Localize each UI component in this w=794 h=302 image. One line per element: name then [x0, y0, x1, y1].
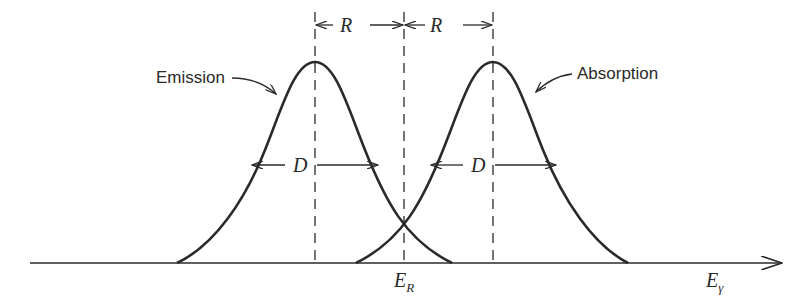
er-label-sub: R — [406, 280, 414, 295]
er-label-main: E — [394, 269, 406, 291]
diagram-graphics — [0, 0, 794, 302]
emission-curve — [177, 62, 452, 263]
emission-leader — [232, 78, 276, 94]
axis-label-main: E — [706, 269, 718, 291]
axis-label: Eγ — [706, 270, 723, 294]
width-right-label: D — [471, 155, 485, 175]
recoil-left-label: R — [340, 15, 352, 35]
emission-label: Emission — [156, 69, 225, 86]
absorption-leader — [536, 74, 572, 92]
width-left-label: D — [293, 155, 307, 175]
absorption-label: Absorption — [577, 65, 658, 82]
absorption-curve — [356, 62, 628, 263]
axis-label-sub: γ — [718, 280, 723, 295]
er-label: ER — [394, 270, 414, 294]
recoil-right-label: R — [430, 15, 442, 35]
recoil-diagram: Emission Absorption R R D D ER Eγ — [0, 0, 794, 302]
